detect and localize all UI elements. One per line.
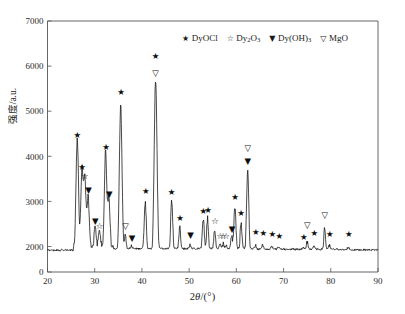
phase-marker-mgo: ▽ [321,210,328,220]
phase-marker-dyocl: ★ [276,231,284,241]
svg-text:70: 70 [279,276,289,286]
svg-text:7000: 7000 [26,16,45,26]
phase-marker-dy2o3: ☆ [211,216,219,226]
legend-symbol-icon: ★ [182,34,189,43]
phase-marker-dyocl: ★ [345,229,353,239]
svg-text:30: 30 [90,276,100,286]
svg-text:3000: 3000 [26,197,45,207]
phase-marker-dy-oh-3: ▼ [229,224,236,234]
phase-marker-mgo: ▽ [152,68,159,78]
legend-symbol-icon: ▽ [320,34,326,43]
phase-marker-dyocl: ★ [310,228,318,238]
phase-marker-dyocl: ★ [102,142,110,152]
svg-text:4000: 4000 [26,152,45,162]
phase-marker-dyocl: ★ [326,229,334,239]
phase-marker-mgo: ▽ [244,143,251,153]
legend-label: Dy(OH)3 [278,33,311,43]
legend-item-0: ★DyOCl [182,33,218,43]
y-axis-title: 强度/a.u. [6,112,20,123]
phase-marker-dy-oh-3: ▼ [85,185,92,195]
svg-text:20: 20 [43,276,53,286]
phase-marker-dy2o3: ☆ [81,171,89,181]
svg-text:90: 90 [374,276,384,286]
phase-marker-dy2o3: ☆ [96,221,104,231]
svg-text:80: 80 [326,276,336,286]
phase-marker-dyocl: ★ [300,232,308,242]
legend-label: Dy2O3 [236,33,260,43]
phase-marker-mgo: ▽ [122,221,129,231]
phase-marker-dyocl: ★ [142,186,150,196]
phase-marker-dyocl: ★ [73,130,81,140]
phase-marker-dy-oh-3: ▼ [187,230,194,240]
legend-symbol-icon: ▼ [269,34,275,43]
svg-text:6000: 6000 [26,61,45,71]
legend-symbol-icon: ☆ [227,34,234,43]
phase-markers: ★★☆▼▼☆★▼★▽▼★★▽★★▼★★☆☆☆☆▼★★▽▼★★★★★▽★▽★★ [73,51,352,242]
legend: ★DyOCl☆Dy2O3▼Dy(OH)3▽MgO [182,33,348,43]
phase-marker-dyocl: ★ [231,192,239,202]
legend-label: MgO [329,33,348,43]
phase-marker-dyocl: ★ [204,205,212,215]
svg-text:5000: 5000 [26,106,45,116]
svg-text:40: 40 [137,276,147,286]
legend-label: DyOCl [192,33,218,43]
phase-marker-dyocl: ★ [259,228,267,238]
x-axis-title-suffix: /(°) [200,291,215,302]
phase-marker-dy-oh-3: ▼ [129,233,136,243]
y-axis-title-text: 强度/a.u. [8,110,19,124]
legend-item-1: ☆Dy2O3 [227,33,261,43]
phase-marker-dyocl: ★ [237,208,245,218]
svg-text:60: 60 [232,276,242,286]
svg-text:2000: 2000 [26,242,45,252]
phase-marker-dyocl: ★ [117,87,125,97]
phase-marker-dy-oh-3: ▼ [244,156,251,166]
xrd-plot: 0200030004000500060007000203040506070809… [0,0,405,314]
xrd-figure: 0200030004000500060007000203040506070809… [0,0,405,314]
legend-item-2: ▼Dy(OH)3 [269,33,311,43]
phase-marker-dyocl: ★ [176,213,184,223]
phase-marker-dyocl: ★ [152,51,160,61]
phase-marker-dyocl: ★ [168,187,176,197]
legend-item-3: ▽MgO [320,33,348,43]
svg-text:50: 50 [185,276,195,286]
phase-marker-dy-oh-3: ▼ [106,189,113,199]
x-axis-title: 2θ/(°) [0,291,405,302]
